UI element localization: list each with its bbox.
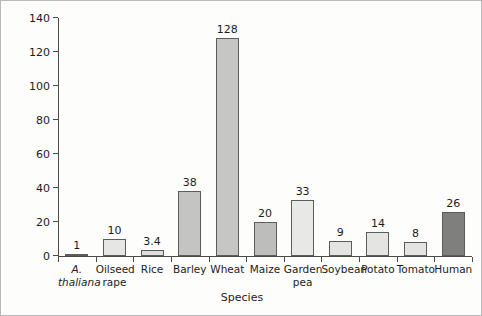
bar[interactable]: 1 [65,254,88,256]
x-tick-mark [284,257,285,262]
bar[interactable]: 26 [442,212,465,256]
x-tick-mark [397,257,398,262]
x-category-label: Oilseedrape [96,263,134,288]
bar-value-label: 9 [337,226,344,239]
x-category-label-line1: Maize [250,263,280,275]
x-tick-mark [133,257,134,262]
x-category-label-line2: rape [96,276,134,289]
x-category-label-line1: A. [71,263,82,275]
y-tick-label: 0 [43,249,50,262]
bar[interactable]: 14 [366,232,389,256]
bar[interactable]: 128 [216,38,239,256]
bar-value-label: 8 [412,227,419,240]
x-category-label-line1: Garden [284,263,322,275]
x-category-label-line1: Human [434,263,472,275]
y-tick-mark [53,119,58,120]
x-tick-mark [472,257,473,262]
x-category-label: Tomato [397,263,435,276]
x-category-label-line2: thaliana [58,276,96,289]
x-tick-mark [209,257,210,262]
y-tick-mark [53,187,58,188]
x-tick-mark [171,257,172,262]
y-tick-label: 40 [36,181,50,194]
y-tick-mark [53,17,58,18]
x-category-label-line1: Potato [361,263,394,275]
y-tick-mark [53,153,58,154]
x-tick-mark [321,257,322,262]
x-category-label: Maize [246,263,284,276]
y-tick-mark [53,221,58,222]
x-category-label: Barley [171,263,209,276]
x-category-label-line2: pea [284,276,322,289]
x-category-label: A.thaliana [58,263,96,288]
bar-value-label: 14 [371,217,385,230]
x-category-label-line1: Barley [173,263,207,275]
x-tick-mark [58,257,59,262]
bar[interactable]: 10 [103,239,126,256]
x-tick-mark [359,257,360,262]
y-axis-line [58,18,59,257]
y-tick-label: 60 [36,147,50,160]
bar-value-label: 3.4 [143,235,161,248]
bar-value-label: 26 [446,197,460,210]
x-tick-mark [246,257,247,262]
bar[interactable]: 20 [254,222,277,256]
x-category-label: Human [434,263,472,276]
y-tick-mark [53,51,58,52]
x-axis-title: Species [1,291,482,304]
x-category-label: Gardenpea [284,263,322,288]
plot-area: 020406080100120140 1103.4381282033914826 [58,18,472,256]
bar[interactable]: 3.4 [141,250,164,256]
y-tick-mark [53,85,58,86]
x-tick-mark [96,257,97,262]
x-category-label: Soybean [321,263,359,276]
y-tick-label: 140 [29,11,50,24]
bar-value-label: 1 [73,239,80,252]
x-category-label-line1: Tomato [397,263,435,275]
y-tick-mark [53,255,58,256]
bar-value-label: 20 [258,207,272,220]
bar[interactable]: 33 [291,200,314,256]
y-tick-label: 20 [36,215,50,228]
bar[interactable]: 9 [329,241,352,256]
x-category-label-line1: Rice [141,263,163,275]
y-tick-label: 80 [36,113,50,126]
x-category-label-line1: Wheat [210,263,244,275]
x-category-label-line1: Oilseed [96,263,135,275]
genome-size-bar-chart: Relative genome size 020406080100120140 … [0,0,482,316]
x-category-label: Potato [359,263,397,276]
bar-value-label: 128 [217,23,238,36]
y-tick-label: 120 [29,45,50,58]
x-category-label: Wheat [209,263,247,276]
x-tick-mark [434,257,435,262]
bar[interactable]: 38 [178,191,201,256]
x-axis-line [58,256,472,257]
bar-value-label: 10 [107,224,121,237]
bar-value-label: 38 [183,176,197,189]
x-category-label: Rice [133,263,171,276]
bar[interactable]: 8 [404,242,427,256]
y-tick-label: 100 [29,79,50,92]
bar-value-label: 33 [296,185,310,198]
